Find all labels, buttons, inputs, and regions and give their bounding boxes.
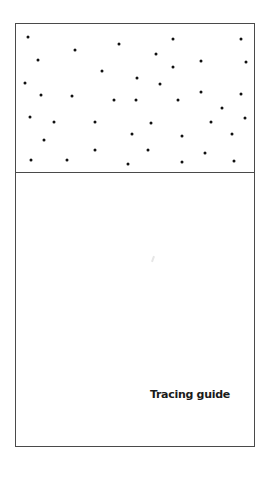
tracing-frame: Tracing guide bbox=[15, 23, 255, 447]
dot bbox=[200, 91, 203, 94]
dot bbox=[240, 93, 243, 96]
dot bbox=[37, 59, 40, 62]
dot bbox=[181, 161, 184, 164]
dot bbox=[231, 133, 234, 136]
dot bbox=[177, 99, 180, 102]
dot bbox=[127, 163, 130, 166]
dot bbox=[244, 117, 247, 120]
dot-pattern-area bbox=[16, 24, 254, 173]
dot bbox=[233, 160, 236, 163]
dot bbox=[101, 70, 104, 73]
dot bbox=[240, 38, 243, 41]
dot bbox=[118, 43, 121, 46]
dot bbox=[71, 95, 74, 98]
dot bbox=[150, 122, 153, 125]
dot bbox=[172, 66, 175, 69]
dot bbox=[155, 53, 158, 56]
dot bbox=[135, 99, 138, 102]
dot bbox=[200, 60, 203, 63]
dot bbox=[204, 152, 207, 155]
dot bbox=[29, 116, 32, 119]
dot bbox=[94, 121, 97, 124]
dot bbox=[159, 83, 162, 86]
dot bbox=[24, 82, 27, 85]
caption-label: Tracing guide bbox=[150, 388, 230, 401]
dot bbox=[30, 159, 33, 162]
dot bbox=[181, 135, 184, 138]
faint-mark bbox=[151, 256, 155, 262]
dot bbox=[27, 36, 30, 39]
dot bbox=[210, 121, 213, 124]
dot bbox=[172, 38, 175, 41]
dot bbox=[94, 149, 97, 152]
dot bbox=[221, 107, 224, 110]
dot bbox=[113, 99, 116, 102]
dot bbox=[74, 49, 77, 52]
dot bbox=[43, 139, 46, 142]
dot bbox=[53, 121, 56, 124]
dot bbox=[245, 61, 248, 64]
dot bbox=[131, 133, 134, 136]
dot bbox=[147, 149, 150, 152]
dot bbox=[66, 159, 69, 162]
dot bbox=[136, 77, 139, 80]
dot bbox=[40, 94, 43, 97]
